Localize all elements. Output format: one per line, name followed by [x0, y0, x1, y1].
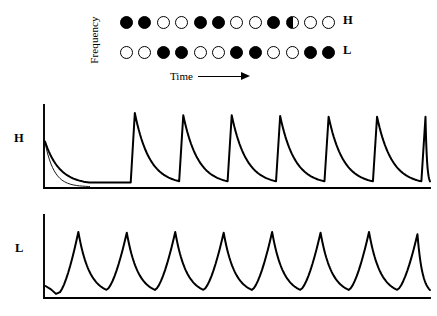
- panel-axes-h: [44, 105, 430, 188]
- figure-root: Frequency H L Time H L: [0, 0, 437, 316]
- low-frequency-response-panel: [44, 215, 430, 298]
- response-traces: [0, 0, 437, 316]
- panel-axes-l: [44, 215, 430, 298]
- waveform-h-secondary: [45, 142, 90, 186]
- waveform-h: [45, 113, 430, 183]
- waveform-l: [46, 232, 431, 294]
- high-frequency-response-panel: [44, 105, 430, 188]
